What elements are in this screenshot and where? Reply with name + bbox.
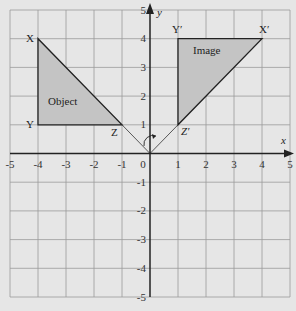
x-tick: 1	[175, 158, 181, 170]
object-label: Object	[48, 95, 77, 107]
image-label: Image	[193, 44, 221, 56]
vertex-label-x: X	[26, 32, 34, 44]
x-tick: 4	[259, 158, 265, 170]
vertex-label-z-prime: Z′	[181, 125, 190, 137]
y-tick: 2	[141, 90, 147, 102]
x-tick: -1	[117, 158, 126, 170]
y-tick: -4	[137, 262, 147, 274]
x-tick: -5	[5, 158, 15, 170]
rotation-arrowhead-icon	[152, 134, 156, 139]
y-tick: 3	[141, 61, 147, 73]
y-axis-arrow-icon	[146, 3, 154, 14]
y-tick: 4	[141, 32, 147, 44]
x-tick: -3	[61, 158, 71, 170]
vertex-label-x-prime: X′	[259, 23, 269, 35]
coordinate-plane: x y -5 -4 -3 -2 -1 0 1 2 3 4 5 5 4 3 2 1…	[0, 0, 296, 311]
y-tick: 5	[141, 4, 147, 16]
y-tick: -3	[137, 233, 147, 245]
y-tick: 1	[141, 118, 147, 130]
vertex-label-y: Y	[26, 118, 34, 130]
y-tick: -2	[137, 204, 146, 216]
y-axis-label: y	[156, 6, 162, 18]
x-axis-arrow-icon	[284, 150, 294, 158]
x-axis-label: x	[280, 134, 286, 146]
y-tick: -5	[137, 291, 147, 303]
x-tick: 2	[203, 158, 209, 170]
x-tick: 5	[287, 158, 293, 170]
x-tick: 3	[231, 158, 237, 170]
x-tick: -4	[33, 158, 43, 170]
vertex-label-y-prime: Y′	[172, 23, 182, 35]
x-tick: -2	[89, 158, 98, 170]
y-tick: -1	[137, 176, 146, 188]
origin-label: 0	[140, 158, 146, 170]
vertex-label-z: Z	[111, 126, 118, 138]
object-triangle	[38, 39, 122, 125]
construction-line-zp	[150, 125, 178, 154]
